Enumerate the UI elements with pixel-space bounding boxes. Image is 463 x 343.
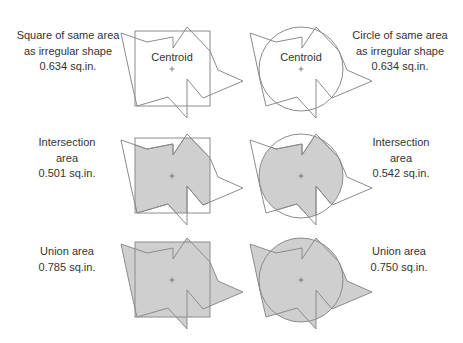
caption-value: 0.634 sq.in. [17, 59, 120, 75]
row-equal-area-square-panel: Centroid [121, 27, 243, 118]
caption-value: 0.542 sq.in. [373, 166, 430, 182]
caption-line: area [39, 151, 96, 167]
row-intersection-square-panel [121, 134, 243, 225]
centroid-marker-icon [170, 67, 175, 72]
row-intersection-circle-panel [250, 134, 372, 225]
caption-line: Square of same area [17, 28, 120, 44]
row-union-circle-panel [250, 238, 372, 329]
centroid-marker-icon [299, 67, 304, 72]
square-intersection-caption: Intersection area 0.501 sq.in. [39, 135, 96, 182]
square-union-caption: Union area 0.785 sq.in. [39, 244, 96, 275]
caption-line: Circle of same area [352, 28, 447, 44]
caption-line: Intersection [373, 135, 430, 151]
square-equal-area-caption: Square of same area as irregular shape 0… [17, 28, 120, 75]
caption-line: area [373, 151, 430, 167]
caption-value: 0.501 sq.in. [39, 166, 96, 182]
centroid-label: Centroid [151, 51, 193, 63]
circle-intersection-caption: Intersection area 0.542 sq.in. [373, 135, 430, 182]
centroid-label: Centroid [280, 51, 322, 63]
caption-line: Intersection [39, 135, 96, 151]
caption-value: 0.634 sq.in. [352, 59, 447, 75]
caption-line: as irregular shape [352, 44, 447, 60]
caption-value: 0.785 sq.in. [39, 260, 96, 276]
caption-line: Union area [39, 244, 96, 260]
circle-equal-area-caption: Circle of same area as irregular shape 0… [352, 28, 447, 75]
caption-line: Union area [371, 244, 428, 260]
circle-union-caption: Union area 0.750 sq.in. [371, 244, 428, 275]
caption-value: 0.750 sq.in. [371, 260, 428, 276]
irregular-shape [121, 27, 243, 118]
caption-line: as irregular shape [17, 44, 120, 60]
row-union-square-panel [121, 238, 243, 329]
